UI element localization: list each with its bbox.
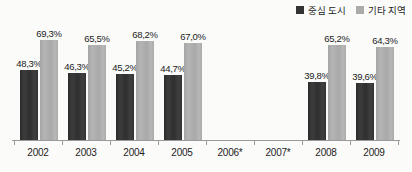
legend-label-series-dark: 중심 도시 [308,3,346,17]
bar [164,75,182,140]
x-axis-tick [398,140,399,145]
bar [88,45,106,140]
x-axis-tick-label: 2004 [110,147,158,158]
bar-group: 39,6%64,3% [350,24,398,140]
legend-item-series-dark: 중심 도시 [296,3,346,17]
legend-swatch-icon-series-dark [296,6,304,14]
bar-group: 46,3%65,5% [62,24,110,140]
x-axis-tick-label: 2009 [350,147,398,158]
x-axis-tick [14,140,15,145]
x-axis-labels: 20022003200420052006*2007*20082009 [14,147,398,163]
bar [376,47,394,140]
x-axis-tick [110,140,111,145]
x-axis-tick [206,140,207,145]
x-axis-tick-label: 2002 [14,147,62,158]
x-axis-tick [254,140,255,145]
bar [68,73,86,140]
bar [356,83,374,140]
bar-chart: 중심 도시 기타 지역 48,3%69,3%46,3%65,5%45,2%68,… [0,0,412,172]
bar [116,74,134,140]
x-axis-tick-label: 2007* [254,147,302,158]
legend-item-series-light: 기타 지역 [356,3,406,17]
plot-area: 48,3%69,3%46,3%65,5%45,2%68,2%44,7%67,0%… [14,24,398,140]
bar [20,70,38,140]
bar-group: 39,8%65,2% [302,24,350,140]
bar-group [206,24,254,140]
bar-group: 44,7%67,0% [158,24,206,140]
x-axis-tick-label: 2003 [62,147,110,158]
x-axis-tick [350,140,351,145]
bar [136,41,154,140]
x-axis-tick [158,140,159,145]
bar [328,45,346,140]
x-axis-tick-label: 2005 [158,147,206,158]
chart-legend: 중심 도시 기타 지역 [296,3,406,17]
bar [308,82,326,140]
bar-value-label: 64,3% [362,35,408,46]
x-axis-tick [302,140,303,145]
legend-swatch-icon-series-light [356,6,364,14]
bar-group: 48,3%69,3% [14,24,62,140]
bar-group [254,24,302,140]
x-axis-tick [62,140,63,145]
bar [184,43,202,140]
x-axis-tick-label: 2006* [206,147,254,158]
legend-label-series-light: 기타 지역 [368,3,406,17]
x-axis-tick-label: 2008 [302,147,350,158]
bar [40,40,58,140]
bar-group: 45,2%68,2% [110,24,158,140]
